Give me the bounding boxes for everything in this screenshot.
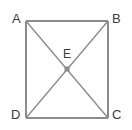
vertex-label-d: D bbox=[11, 108, 20, 121]
vertex-label-a: A bbox=[12, 12, 21, 25]
vertex-label-e: E bbox=[63, 48, 71, 60]
point-e-marker bbox=[65, 67, 70, 72]
geometry-figure: A B C D E bbox=[0, 0, 132, 130]
vertex-label-b: B bbox=[112, 12, 121, 25]
vertex-label-c: C bbox=[112, 108, 121, 121]
